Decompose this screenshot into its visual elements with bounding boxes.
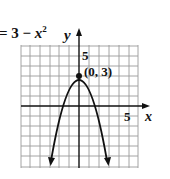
y-axis-arrow-icon: [76, 28, 82, 36]
vertex-label: (0, 3): [84, 64, 112, 79]
x-axis-label: x: [144, 109, 152, 124]
curve-arrow-right-icon: [104, 157, 111, 166]
y-tick-label: 5: [82, 48, 89, 63]
equation-exponent: 2: [42, 24, 47, 34]
equation-prefix: = 3 −: [0, 25, 35, 41]
y-axis-label: y: [62, 27, 71, 43]
x-tick-label: 5: [124, 109, 131, 124]
vertex-point: [76, 73, 82, 79]
curve-arrow-left-icon: [48, 157, 55, 166]
graph-figure: = 3 − x2: [0, 0, 170, 179]
equation-label: = 3 − x2: [0, 24, 47, 42]
